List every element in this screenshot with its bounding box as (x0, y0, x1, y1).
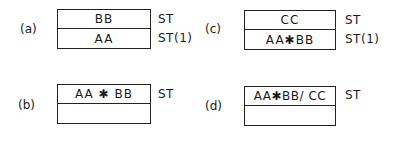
stack-cell-top: CC (245, 11, 335, 30)
register-label-st: ST (158, 12, 174, 26)
fpu-stack: CC AA✱BB (244, 10, 336, 50)
panel-label: (b) (18, 98, 35, 112)
register-label-st: ST (345, 88, 361, 102)
fpu-stack: AA ✱ BB (57, 84, 151, 124)
register-label-st1: ST(1) (345, 32, 379, 46)
stack-cell-second: AA✱BB (245, 30, 335, 49)
panel-label: (a) (20, 22, 37, 36)
register-label-st1: ST(1) (158, 31, 192, 45)
stack-cell-second: AA (58, 29, 150, 48)
stack-cell-top: AA ✱ BB (58, 85, 150, 104)
register-label-st: ST (158, 87, 174, 101)
stack-cell-top: BB (58, 10, 150, 29)
stack-cell-second (58, 104, 150, 123)
fpu-stack: AA✱BB/ CC (244, 86, 336, 126)
stack-cell-top: AA✱BB/ CC (245, 87, 335, 106)
panel-label: (c) (205, 22, 221, 36)
fpu-stack: BB AA (57, 9, 151, 49)
panel-label: (d) (205, 99, 222, 113)
register-label-st: ST (345, 13, 361, 27)
stack-cell-second (245, 106, 335, 125)
